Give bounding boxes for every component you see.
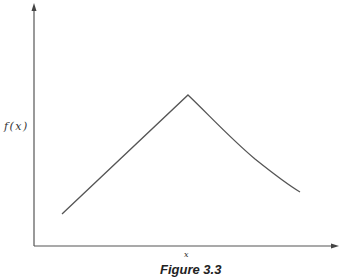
x-axis-arrow-icon [331, 244, 339, 249]
y-axis-label: f(x) [4, 120, 29, 133]
y-axis-arrow-icon [32, 3, 37, 11]
x-axis-label: x [184, 250, 189, 259]
figure-caption: Figure 3.3 [160, 262, 221, 277]
function-curve [62, 95, 300, 214]
